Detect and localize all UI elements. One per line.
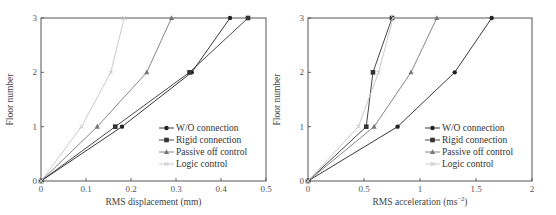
square-marker-icon [430, 138, 435, 143]
legend-item: Logic control [159, 159, 228, 169]
y-tick-label: 0 [300, 176, 305, 186]
circle-marker-icon [164, 126, 168, 130]
square-marker-icon [246, 16, 251, 21]
series-logic-control [306, 16, 395, 183]
y-axis-title: Floor number [272, 73, 282, 126]
y-tick-label: 3 [33, 13, 38, 23]
triangle-marker-icon [144, 70, 149, 75]
square-marker-icon [187, 70, 192, 75]
y-tick-label: 2 [300, 67, 305, 77]
series-logic-control [39, 16, 126, 183]
displacement-chart: 00.10.20.30.40.50123RMS displacement (mm… [5, 13, 272, 208]
x-tick-label: 0 [306, 184, 311, 194]
x-tick-label: 0.5 [358, 184, 370, 194]
x-axis-title: RMS acceleration (ms−2) [372, 195, 467, 208]
series-line [41, 18, 124, 181]
x-tick-label: 0.1 [80, 184, 91, 194]
legend-label: Rigid connection [176, 135, 241, 145]
legend-label: Passive off control [176, 147, 247, 157]
legend-label: Rigid connection [442, 135, 507, 145]
series-line [308, 18, 437, 181]
legend-item: W/O connection [159, 123, 239, 133]
square-marker-icon [364, 124, 369, 129]
cross-marker-icon [356, 125, 360, 129]
x-tick-label: 0 [39, 184, 44, 194]
legend-item: Rigid connection [159, 135, 241, 145]
acceleration-chart: 00.511.520123RMS acceleration (ms−2)Floo… [272, 13, 534, 208]
legend: W/O connectionRigid connectionPassive of… [425, 123, 513, 169]
square-marker-icon [164, 138, 169, 143]
y-tick-label: 1 [33, 122, 38, 132]
x-tick-label: 0.2 [125, 184, 136, 194]
x-axis-title: RMS displacement (mm) [105, 197, 201, 208]
legend-item: Logic control [425, 159, 494, 169]
x-tick-label: 0.4 [215, 184, 227, 194]
series-line [308, 18, 392, 181]
x-tick-label: 0.3 [170, 184, 182, 194]
x-tick-label: 1.5 [470, 184, 482, 194]
circle-marker-icon [453, 70, 457, 74]
legend-label: Passive off control [442, 147, 513, 157]
y-tick-label: 0 [33, 176, 38, 186]
y-axis-title: Floor number [5, 73, 15, 126]
square-marker-icon [371, 70, 376, 75]
circle-marker-icon [120, 124, 124, 128]
y-tick-label: 3 [300, 13, 305, 23]
series-line [308, 18, 393, 181]
series-rigid-connection [306, 16, 395, 184]
legend-item: W/O connection [425, 123, 505, 133]
legend-item: Rigid connection [425, 135, 507, 145]
legend-label: W/O connection [442, 123, 505, 133]
square-marker-icon [113, 124, 118, 129]
circle-marker-icon [228, 16, 232, 20]
x-tick-label: 0.5 [260, 184, 272, 194]
y-tick-label: 1 [300, 122, 305, 132]
legend: W/O connectionRigid connectionPassive of… [159, 123, 247, 169]
legend-item: Passive off control [159, 147, 247, 157]
legend-item: Passive off control [425, 147, 513, 157]
legend-label: Logic control [176, 159, 228, 169]
figure-canvas: 00.10.20.30.40.50123RMS displacement (mm… [0, 0, 556, 215]
circle-marker-icon [395, 124, 399, 128]
y-tick-label: 2 [33, 67, 38, 77]
circle-marker-icon [489, 16, 493, 20]
legend-label: Logic control [442, 159, 494, 169]
x-tick-label: 2 [530, 184, 535, 194]
circle-marker-icon [430, 126, 434, 130]
legend-label: W/O connection [176, 123, 239, 133]
series-passive-off-control [305, 15, 439, 183]
triangle-marker-icon [408, 70, 413, 75]
x-tick-label: 1 [418, 184, 423, 194]
cross-marker-icon [80, 125, 84, 129]
